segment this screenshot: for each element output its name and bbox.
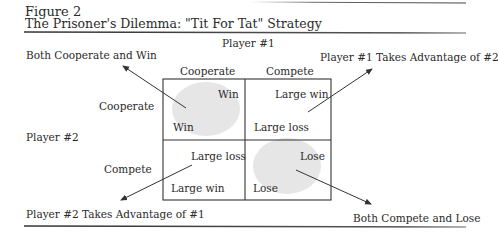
cell-coop-coop-player2: Win bbox=[173, 122, 194, 133]
cell-coop-compete-player1: Large win bbox=[275, 89, 329, 100]
outcome-player2-advantage: Player #2 Takes Advantage of #1 bbox=[26, 209, 205, 220]
cell-compete-coop-player1: Large loss bbox=[191, 151, 246, 162]
bottom-rule bbox=[24, 226, 466, 227]
cell-compete-coop-player2: Large win bbox=[171, 183, 225, 194]
row-header-compete: Compete bbox=[104, 164, 152, 175]
outcome-player1-advantage: Player #1 Takes Advantage of #2 bbox=[320, 52, 499, 63]
outcome-both-cooperate: Both Cooperate and Win bbox=[26, 50, 157, 61]
player1-label: Player #1 bbox=[222, 38, 275, 49]
cell-coop-compete-player2: Large loss bbox=[254, 122, 309, 133]
cell-compete-compete-player1: Lose bbox=[300, 151, 325, 162]
cell-compete-compete-player2: Lose bbox=[253, 183, 278, 194]
cell-coop-coop-player1: Win bbox=[218, 89, 239, 100]
column-header-compete: Compete bbox=[266, 66, 314, 77]
player2-label: Player #2 bbox=[26, 132, 79, 143]
column-header-cooperate: Cooperate bbox=[180, 66, 235, 77]
figure-title: The Prisoner's Dilemma: "Tit For Tat" St… bbox=[25, 18, 322, 31]
title-rule bbox=[24, 32, 466, 33]
top-rule bbox=[250, 2, 466, 3]
outcome-both-compete: Both Compete and Lose bbox=[353, 213, 480, 224]
row-header-cooperate: Cooperate bbox=[99, 101, 154, 112]
